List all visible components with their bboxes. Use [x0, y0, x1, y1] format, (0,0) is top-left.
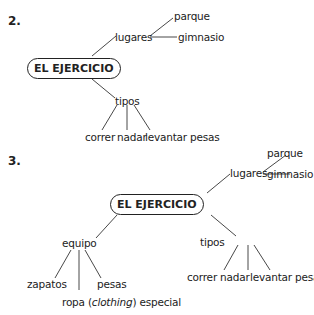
leaf-nadar: nadar: [220, 272, 250, 283]
branch-tipos: tipos: [200, 237, 225, 248]
leaf-parque: parque: [267, 148, 303, 159]
ropa-text: ropa (: [62, 296, 92, 308]
clothing-gloss: clothing: [92, 296, 133, 308]
especial-text: ) especial: [132, 296, 181, 308]
branch-tipos: tipos: [115, 96, 140, 107]
leaf-gimnasio: gimnasio: [267, 169, 313, 180]
leaf-levantar-pesas: levantar pesas: [145, 132, 220, 143]
center-node: EL EJERCICIO: [110, 194, 204, 215]
leaf-pesas: pesas: [97, 279, 127, 290]
leaf-parque: parque: [174, 11, 210, 22]
center-node: EL EJERCICIO: [27, 58, 121, 79]
leaf-gimnasio: gimnasio: [178, 32, 224, 43]
branch-equipo: equipo: [62, 238, 97, 249]
branch-lugares: lugares: [115, 32, 152, 43]
leaf-correr: correr: [187, 272, 217, 283]
leaf-ropa-especial: ropa (clothing) especial: [62, 297, 181, 308]
diagram-number: 2.: [8, 14, 21, 28]
leaf-nadar: nadar: [117, 132, 147, 143]
leaf-correr: correr: [85, 132, 115, 143]
branch-lugares: lugares: [230, 168, 267, 179]
diagram-number: 3.: [8, 154, 21, 168]
leaf-zapatos: zapatos: [27, 279, 67, 290]
leaf-levantar-pesas: levantar pesas: [250, 272, 314, 283]
